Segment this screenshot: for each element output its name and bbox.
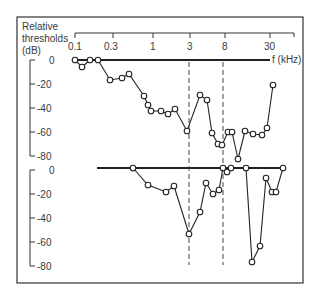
x-axis-unit: f (kHz) bbox=[272, 54, 301, 65]
x-tick-30: 30 bbox=[264, 41, 276, 52]
lower-y-tick-60: -60 bbox=[37, 237, 52, 248]
upper-y-tick-20: -20 bbox=[37, 79, 52, 90]
upper-y-axis: 0 -20 -40 -60 -80 bbox=[30, 55, 55, 162]
threshold-chart: Relative thresholds (dB) 0.1 0.3 1 3 8 3… bbox=[0, 0, 316, 299]
lower-y-tick-20: -20 bbox=[37, 189, 52, 200]
upper-y-tick-80: -80 bbox=[37, 151, 52, 162]
upper-y-tick-40: -40 bbox=[37, 103, 52, 114]
x-tick-0.1: 0.1 bbox=[68, 41, 82, 52]
lower-y-tick-80: -80 bbox=[37, 261, 52, 272]
upper-markers bbox=[72, 57, 276, 162]
lower-y-axis: 0 -20 -40 -60 -80 bbox=[30, 165, 55, 272]
x-tick-1: 1 bbox=[150, 41, 156, 52]
x-tick-3: 3 bbox=[187, 41, 193, 52]
lower-y-tick-40: -40 bbox=[37, 213, 52, 224]
upper-series bbox=[72, 57, 276, 162]
y-axis-title-line2: thresholds bbox=[22, 33, 68, 44]
x-tick-8: 8 bbox=[222, 41, 228, 52]
x-tick-0.3: 0.3 bbox=[104, 41, 118, 52]
lower-y-tick-0: 0 bbox=[49, 165, 55, 176]
y-axis-title-line1: Relative bbox=[22, 21, 59, 32]
upper-y-tick-60: -60 bbox=[37, 127, 52, 138]
upper-y-tick-0: 0 bbox=[49, 55, 55, 66]
lower-series bbox=[130, 165, 286, 265]
y-axis-title-line3: (dB) bbox=[22, 45, 41, 56]
